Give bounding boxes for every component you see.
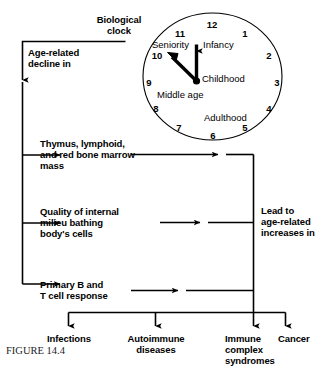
biological-clock-title: Biological clock <box>74 14 164 36</box>
clock-number-12: 12 <box>205 20 219 30</box>
lead-to-increases-label: Lead to age-related increases in <box>261 205 315 239</box>
age-related-decline-label: Age-related decline in <box>28 47 79 69</box>
clock-number-7: 7 <box>172 123 186 133</box>
outcome-immune-complex-syndromes: Immune complex syndromes <box>225 333 275 367</box>
decline-item-bt-cell: Primary B and T cell response <box>40 279 108 301</box>
clock-number-3: 3 <box>270 78 284 88</box>
clock-stage-infancy: Infancy <box>203 40 234 50</box>
outcome-autoimmune-diseases: Autoimmune diseases <box>114 333 198 355</box>
clock-hands <box>168 45 201 85</box>
clock-number-5: 5 <box>238 123 252 133</box>
decline-item-milieu: Quality of internal milieu bathing body'… <box>40 206 119 240</box>
clock-stage-childhood: Childhood <box>202 74 245 84</box>
outcome-cancer: Cancer <box>278 333 310 344</box>
clock-stage-adulthood: Adulthood <box>204 113 247 123</box>
clock-number-10: 10 <box>150 51 164 61</box>
figure-canvas: Biological clock Age-related decline in … <box>0 0 329 374</box>
clock-number-1: 1 <box>238 29 252 39</box>
figure-number-label: FIGURE 14.4 <box>6 345 65 356</box>
clock-number-11: 11 <box>173 29 187 39</box>
clock-number-4: 4 <box>262 104 276 114</box>
outcome-infections: Infections <box>28 333 110 344</box>
clock-number-2: 2 <box>262 51 276 61</box>
clock-stage-middle-age: Middle age <box>157 90 203 100</box>
clock-center-dot <box>193 77 200 84</box>
clock-number-6: 6 <box>206 131 220 141</box>
decline-item-thymus: Thymus, lymphoid, and red bone marrow ma… <box>40 138 135 172</box>
clock-number-9: 9 <box>142 78 156 88</box>
clock-number-8: 8 <box>149 104 163 114</box>
clock-stage-seniority: Seniority <box>152 40 189 50</box>
